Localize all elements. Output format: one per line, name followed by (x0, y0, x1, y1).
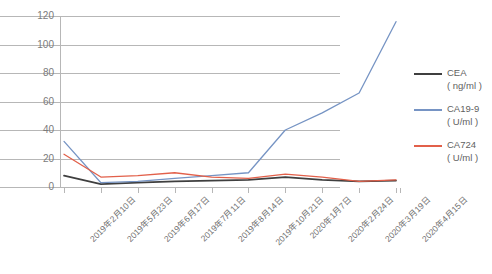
legend-swatch-ca724 (414, 145, 442, 147)
y-tick-label-100: 100 (20, 40, 54, 50)
y-tick-label-120: 120 (20, 11, 54, 21)
legend-series-name: CEA (447, 66, 482, 79)
legend-series-unit: ( U/ml ) (447, 115, 479, 128)
y-tick-mark-100 (55, 45, 60, 46)
x-tick-mark-7 (322, 188, 323, 193)
legend-entry-ca19-9[interactable]: CA19-9( U/ml ) (415, 102, 492, 128)
y-tick-label-40: 40 (20, 125, 54, 135)
chart-figure: 120100806040200 2019年2月10日2019年5月23日2019… (0, 0, 492, 274)
y-tick-label-80: 80 (20, 68, 54, 78)
y-tick-label-0: 0 (20, 182, 54, 192)
x-axis-tick-labels: 2019年2月10日2019年5月23日2019年6月17日2019年7月11日… (0, 195, 492, 274)
legend-series-unit: ( U/ml ) (447, 151, 478, 164)
x-tick-mark-1 (101, 188, 102, 193)
legend-entry-ca724[interactable]: CA724( U/ml ) (415, 138, 492, 164)
x-tick-mark-9 (396, 188, 397, 193)
legend-label: CA724( U/ml ) (447, 138, 478, 164)
x-tick-mark-5 (248, 188, 249, 193)
legend-series-name: CA724 (447, 138, 478, 151)
chart-legend: CEA( ng/ml )CA19-9( U/ml )CA724( U/ml ) (415, 66, 492, 174)
x-tick-mark-6 (285, 188, 286, 193)
y-tick-mark-40 (55, 130, 60, 131)
x-tick-mark-8 (359, 188, 360, 193)
y-tick-mark-120 (55, 16, 60, 17)
series-line-cea (64, 176, 396, 185)
y-tick-mark-0 (55, 187, 60, 188)
y-tick-mark-60 (55, 102, 60, 103)
y-axis-line (60, 16, 61, 188)
x-tick-mark-2 (138, 188, 139, 193)
y-tick-label-20: 20 (20, 154, 54, 164)
legend-swatch-ca19-9 (414, 109, 442, 111)
legend-series-name: CA19-9 (447, 102, 479, 115)
x-tick-mark-end (400, 188, 401, 193)
x-tick-mark-3 (175, 188, 176, 193)
legend-series-unit: ( ng/ml ) (447, 79, 482, 92)
y-tick-mark-80 (55, 73, 60, 74)
y-tick-label-60: 60 (20, 97, 54, 107)
x-tick-mark-4 (212, 188, 213, 193)
y-tick-mark-20 (55, 159, 60, 160)
legend-swatch-cea (414, 73, 442, 75)
legend-entry-cea[interactable]: CEA( ng/ml ) (415, 66, 492, 92)
legend-label: CA19-9( U/ml ) (447, 102, 479, 128)
legend-label: CEA( ng/ml ) (447, 66, 482, 92)
x-tick-mark-0 (64, 188, 65, 193)
